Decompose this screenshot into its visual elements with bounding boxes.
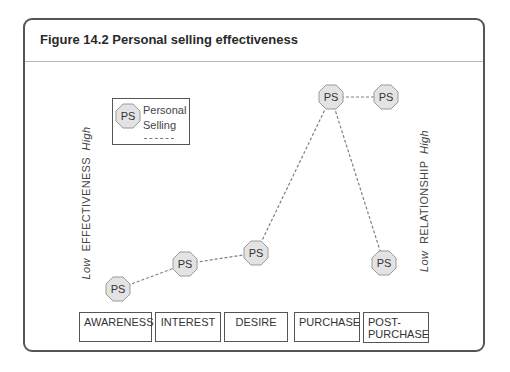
legend-text-line2: Selling — [143, 118, 186, 133]
svg-text:PS: PS — [249, 247, 264, 259]
relationship-low: Low — [418, 251, 430, 272]
stage-awareness: AWARENESS — [79, 312, 152, 342]
ps-node-desire: PS — [244, 241, 268, 265]
stage-post-purchase-line2: PURCHASE — [368, 328, 428, 340]
legend-dashed-line — [144, 138, 174, 139]
effectiveness-high: High — [80, 127, 92, 151]
effectiveness-title: EFFECTIVENESS — [80, 157, 92, 251]
connector-purchase-effectiveness — [331, 97, 384, 263]
svg-text:PS: PS — [379, 91, 394, 103]
ps-node-purchase: PS — [319, 85, 343, 109]
stage-purchase: PURCHASE — [294, 312, 360, 342]
relationship-title: RELATIONSHIP — [418, 161, 430, 244]
stage-post-purchase: POST- PURCHASE — [363, 312, 429, 343]
legend-text: Personal Selling — [143, 103, 186, 133]
relationship-high: High — [418, 130, 430, 154]
relationship-axis-label: Low RELATIONSHIP High — [418, 125, 430, 277]
svg-text:PS: PS — [111, 283, 126, 295]
effectiveness-low: Low — [80, 258, 92, 279]
legend-text-line1: Personal — [143, 103, 186, 118]
ps-node-interest: PS — [173, 252, 197, 276]
stage-interest: INTEREST — [155, 312, 221, 342]
stage-post-purchase-line1: POST- — [368, 316, 428, 328]
svg-text:PS: PS — [324, 91, 339, 103]
ps-node-post-purchase-effectiveness: PS — [372, 251, 396, 275]
svg-text:PS: PS — [178, 258, 193, 270]
ps-node-awareness: PS — [106, 277, 130, 301]
legend-box: Personal Selling — [112, 98, 190, 145]
stage-desire: DESIRE — [224, 312, 288, 342]
effectiveness-axis-label: Low EFFECTIVENESS High — [80, 125, 92, 281]
ps-node-post-purchase-relationship: PS — [374, 85, 398, 109]
connector-desire-purchase — [256, 97, 331, 253]
svg-text:PS: PS — [377, 257, 392, 269]
